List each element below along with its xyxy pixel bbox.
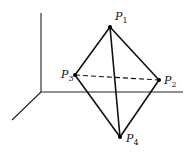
label-p1: P1: [115, 11, 128, 25]
label-p2: P2: [164, 75, 177, 89]
edge-p3-p2-hidden: [75, 75, 159, 80]
vertices: [73, 25, 161, 139]
vertex-p4: [118, 135, 122, 139]
diagram-canvas: P1 P2 P3 P4: [0, 0, 189, 152]
edge-p1-p2: [110, 27, 159, 80]
edges: [75, 27, 159, 137]
edge-p1-p4: [110, 27, 120, 137]
edge-p1-p3: [75, 27, 110, 75]
axes: [12, 13, 183, 120]
vertex-p3: [73, 73, 77, 77]
vertex-p1: [108, 25, 112, 29]
x-axis: [12, 92, 41, 120]
label-p4: P4: [126, 133, 139, 147]
diagram-svg: [0, 0, 189, 152]
edge-p2-p4: [120, 80, 159, 137]
vertex-p2: [157, 78, 161, 82]
edge-p3-p4: [75, 75, 120, 137]
label-p3: P3: [61, 69, 74, 83]
